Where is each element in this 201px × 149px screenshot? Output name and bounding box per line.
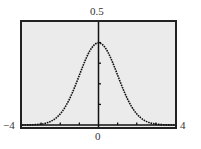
chart-plot bbox=[0, 0, 201, 149]
x-origin-label: 0 bbox=[95, 131, 101, 142]
x-min-label: −4 bbox=[3, 120, 15, 131]
y-max-label: 0.5 bbox=[90, 6, 104, 17]
x-max-label: 4 bbox=[180, 120, 186, 131]
